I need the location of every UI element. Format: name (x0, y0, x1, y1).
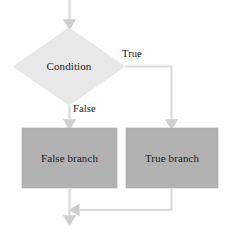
flowchart-canvas (0, 0, 230, 229)
edge-label-true: True (122, 48, 142, 59)
edge-condition-true (125, 67, 172, 123)
edge-label-false: False (73, 103, 96, 114)
node-condition-diamond (13, 28, 125, 105)
node-false-branch-box (22, 128, 117, 188)
flowchart-diagram: Condition False branch True branch True … (0, 0, 230, 229)
edge-true-merge (77, 188, 172, 210)
node-true-branch-box (126, 128, 218, 188)
